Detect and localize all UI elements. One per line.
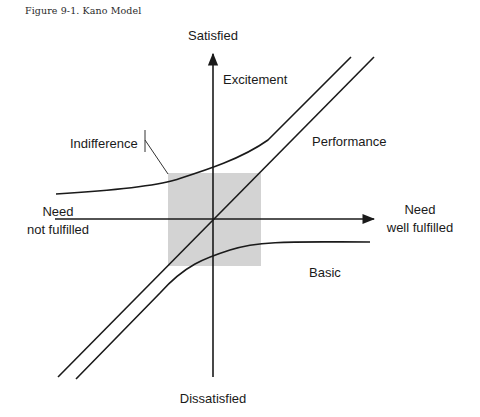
kano-diagram: Satisfied Dissatisfied Need not fulfille… xyxy=(0,0,480,417)
indifference-callout-line xyxy=(145,140,168,174)
x-axis-left-label-line2: not fulfilled xyxy=(27,222,89,237)
x-axis-left-label-line1: Need xyxy=(42,204,73,219)
x-axis-right-label-line2: well fulfilled xyxy=(386,220,453,235)
indifference-label: Indifference xyxy=(70,136,138,151)
excitement-label: Excitement xyxy=(223,72,288,87)
y-axis-top-label: Satisfied xyxy=(188,28,238,43)
performance-line xyxy=(58,57,374,377)
performance-label: Performance xyxy=(312,134,386,149)
x-axis-right-label-line1: Need xyxy=(404,202,435,217)
y-axis-bottom-label: Dissatisfied xyxy=(180,391,246,406)
basic-label: Basic xyxy=(309,265,341,280)
